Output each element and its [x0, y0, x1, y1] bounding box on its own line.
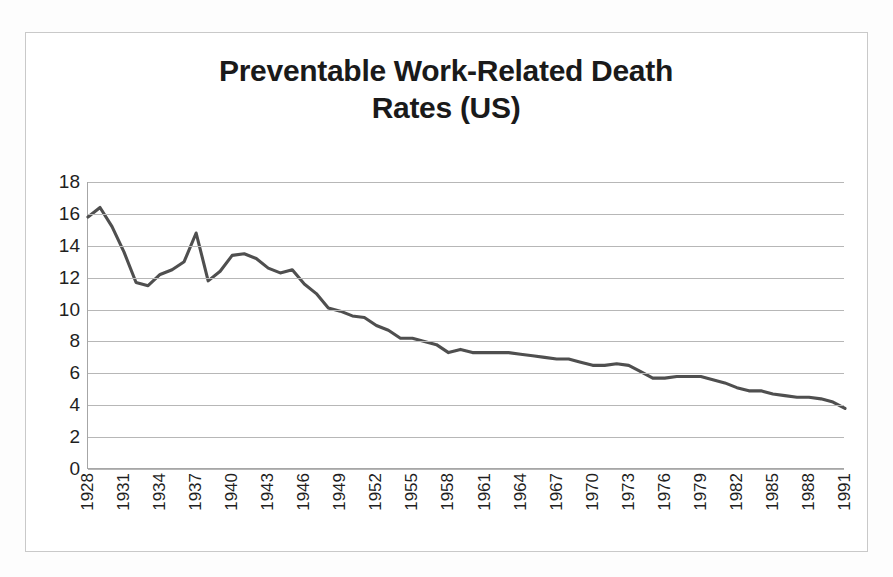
death-rate-line-series — [88, 208, 845, 409]
y-tick-label-8: 8 — [69, 330, 80, 352]
x-tick-label-1943: 1943 — [258, 473, 278, 511]
x-tick-label-1964: 1964 — [511, 473, 531, 511]
series-plot — [88, 182, 845, 469]
y-tick-label-18: 18 — [59, 171, 80, 193]
gridline-y-16 — [88, 214, 844, 215]
x-tick-label-1955: 1955 — [402, 473, 422, 511]
x-tick-label-1982: 1982 — [727, 473, 747, 511]
chart-figure-frame: Preventable Work-Related Death Rates (US… — [25, 32, 868, 552]
y-axis-tick-labels: 024681012141618 — [34, 182, 80, 469]
gridline-y-6 — [88, 373, 844, 374]
x-tick-label-1946: 1946 — [294, 473, 314, 511]
x-tick-label-1985: 1985 — [763, 473, 783, 511]
x-tick-label-1991: 1991 — [835, 473, 855, 511]
x-tick-label-1973: 1973 — [619, 473, 639, 511]
y-tick-label-2: 2 — [69, 426, 80, 448]
x-tick-label-1961: 1961 — [475, 473, 495, 511]
chart-title-line-1: Preventable Work-Related Death — [66, 53, 826, 90]
y-tick-label-6: 6 — [69, 362, 80, 384]
gridline-y-8 — [88, 341, 844, 342]
x-tick-label-1979: 1979 — [691, 473, 711, 511]
x-axis-tick-labels: 1928193119341937194019431946194919521955… — [87, 473, 844, 551]
y-tick-label-16: 16 — [59, 203, 80, 225]
gridline-y-14 — [88, 246, 844, 247]
gridline-y-0 — [88, 469, 844, 470]
y-tick-label-10: 10 — [59, 299, 80, 321]
x-tick-label-1934: 1934 — [150, 473, 170, 511]
x-tick-label-1988: 1988 — [799, 473, 819, 511]
plot-area — [87, 182, 844, 469]
x-tick-label-1967: 1967 — [547, 473, 567, 511]
x-tick-label-1952: 1952 — [366, 473, 386, 511]
x-tick-label-1928: 1928 — [78, 473, 98, 511]
gridline-y-12 — [88, 278, 844, 279]
gridline-y-2 — [88, 437, 844, 438]
gridline-y-18 — [88, 182, 844, 183]
y-tick-label-12: 12 — [59, 267, 80, 289]
x-tick-label-1970: 1970 — [583, 473, 603, 511]
chart-title-line-2: Rates (US) — [66, 90, 826, 127]
y-tick-label-14: 14 — [59, 235, 80, 257]
x-tick-label-1976: 1976 — [655, 473, 675, 511]
gridline-y-4 — [88, 405, 844, 406]
y-tick-label-4: 4 — [69, 394, 80, 416]
figure-page: Preventable Work-Related Death Rates (US… — [0, 0, 893, 577]
gridline-y-10 — [88, 310, 844, 311]
x-tick-label-1937: 1937 — [186, 473, 206, 511]
x-tick-label-1931: 1931 — [114, 473, 134, 511]
x-tick-label-1958: 1958 — [438, 473, 458, 511]
chart-title: Preventable Work-Related Death Rates (US… — [66, 53, 826, 126]
x-tick-label-1940: 1940 — [222, 473, 242, 511]
x-tick-label-1949: 1949 — [330, 473, 350, 511]
